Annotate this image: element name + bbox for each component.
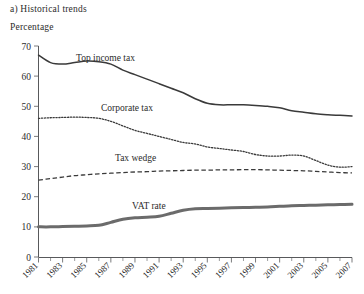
x-tick-label: 2001 bbox=[261, 260, 281, 280]
series-line-corporate-tax bbox=[39, 117, 353, 167]
y-tick-label: 10 bbox=[22, 222, 32, 232]
series-lines bbox=[39, 55, 353, 227]
x-tick-label: 1991 bbox=[141, 260, 161, 280]
x-tick-label: 2003 bbox=[285, 260, 305, 280]
y-tick-label: 50 bbox=[22, 102, 32, 112]
x-tick-label: 1989 bbox=[117, 260, 137, 280]
y-axis: 70 60 50 40 30 20 10 0 bbox=[22, 42, 39, 263]
series-label-corporate-tax: Corporate tax bbox=[101, 103, 153, 113]
y-tick-labels: 70 60 50 40 30 20 10 0 bbox=[22, 42, 32, 263]
series-line-top-income-tax bbox=[39, 55, 353, 116]
x-tick-label: 2005 bbox=[309, 260, 329, 280]
y-tick-label: 30 bbox=[22, 162, 32, 172]
series-label-top-income-tax: Top income tax bbox=[76, 53, 135, 63]
series-label-vat-rate: VAT rate bbox=[132, 201, 166, 211]
x-tick-label: 1983 bbox=[44, 260, 64, 280]
y-tick-label: 70 bbox=[22, 42, 32, 52]
x-tick-labels: 1981198319851987198919911993199519971999… bbox=[20, 260, 354, 280]
x-tick-label: 1997 bbox=[213, 260, 233, 280]
x-tick-label: 1993 bbox=[165, 260, 185, 280]
line-chart: 70 60 50 40 30 20 10 0 19811983198519871… bbox=[0, 0, 364, 294]
series-labels: Top income tax Corporate tax Tax wedge V… bbox=[76, 53, 166, 211]
y-tick-label: 60 bbox=[22, 72, 32, 82]
series-line-vat-rate bbox=[39, 204, 353, 227]
y-tick-label: 20 bbox=[22, 192, 32, 202]
y-tick-label: 0 bbox=[26, 253, 31, 263]
y-tick-label: 40 bbox=[22, 132, 32, 142]
x-tick-label: 1995 bbox=[189, 260, 209, 280]
x-tick-label: 2007 bbox=[334, 260, 354, 280]
x-tick-label: 1987 bbox=[92, 260, 112, 280]
x-tick-label: 1999 bbox=[237, 260, 257, 280]
x-tick-label: 1985 bbox=[68, 260, 88, 280]
series-label-tax-wedge: Tax wedge bbox=[115, 153, 156, 163]
series-line-tax-wedge bbox=[39, 170, 353, 181]
x-tick-label: 1981 bbox=[20, 260, 40, 280]
x-tick-marks bbox=[39, 258, 353, 263]
y-tick-marks bbox=[34, 46, 39, 257]
figure-panel: a) Historical trends Percentage 70 60 50… bbox=[0, 0, 364, 294]
x-axis: 1981198319851987198919911993199519971999… bbox=[20, 258, 354, 281]
